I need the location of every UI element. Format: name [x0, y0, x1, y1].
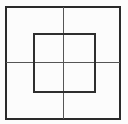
- geometric-figure-svg: [0, 0, 128, 124]
- figure-canvas: [0, 0, 128, 124]
